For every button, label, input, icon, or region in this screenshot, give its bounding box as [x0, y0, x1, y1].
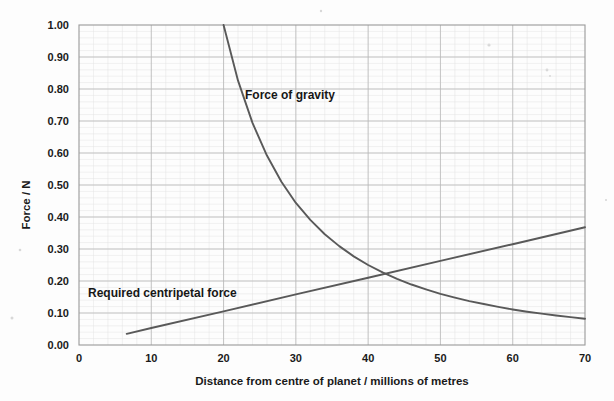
- y-tick-label: 0.20: [48, 275, 69, 287]
- chart-figure: 0.000.100.200.300.400.500.600.700.800.90…: [0, 0, 614, 401]
- y-tick-label: 0.50: [48, 179, 69, 191]
- force-vs-distance-chart: 0.000.100.200.300.400.500.600.700.800.90…: [0, 0, 614, 401]
- y-tick-label: 0.00: [48, 339, 69, 351]
- y-tick-label: 0.60: [48, 147, 69, 159]
- annotation-required-centripetal-force: Required centripetal force: [88, 286, 237, 300]
- y-tick-label: 1.00: [48, 19, 69, 31]
- y-axis-title: Force / N: [20, 180, 32, 229]
- x-axis-title: Distance from centre of planet / million…: [195, 375, 469, 387]
- x-tick-label: 0: [76, 352, 82, 364]
- annotation-force-of-gravity: Force of gravity: [245, 88, 335, 102]
- x-tick-label: 20: [217, 352, 229, 364]
- x-tick-label: 30: [290, 352, 302, 364]
- y-tick-label: 0.80: [48, 83, 69, 95]
- x-tick-label: 60: [507, 352, 519, 364]
- y-tick-label: 0.90: [48, 51, 69, 63]
- x-tick-label: 50: [434, 352, 446, 364]
- y-tick-label: 0.40: [48, 211, 69, 223]
- y-tick-label: 0.70: [48, 115, 69, 127]
- y-tick-label: 0.10: [48, 307, 69, 319]
- chart-background: [0, 0, 614, 401]
- x-tick-label: 40: [362, 352, 374, 364]
- x-tick-label: 10: [145, 352, 157, 364]
- x-tick-label: 70: [579, 352, 591, 364]
- y-tick-label: 0.30: [48, 243, 69, 255]
